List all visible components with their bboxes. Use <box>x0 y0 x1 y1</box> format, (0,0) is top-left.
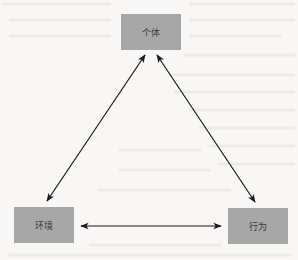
arrow-individual-environment <box>47 55 145 201</box>
node-behavior-label: 行为 <box>249 220 268 233</box>
node-behavior: 行为 <box>228 208 288 244</box>
arrow-individual-behavior <box>157 55 255 202</box>
diagram-canvas: 个体 环境 行为 <box>0 0 298 260</box>
node-individual-label: 个体 <box>142 26 161 39</box>
node-individual: 个体 <box>121 14 181 50</box>
node-environment-label: 环境 <box>35 219 54 232</box>
node-environment: 环境 <box>14 207 74 243</box>
